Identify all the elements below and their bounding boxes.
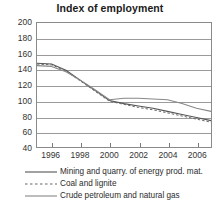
legend-label: Crude petroleum and natural gas <box>58 192 180 200</box>
legend-item: Coal and lignite <box>24 178 220 190</box>
y-axis-tick-label: 120 <box>2 81 32 90</box>
y-axis-tick-label: 40 <box>2 144 32 153</box>
y-axis-tick-label: 180 <box>2 34 32 43</box>
legend-label: Mining and quarry. of energy prod. mat. <box>58 168 203 176</box>
legend-line-swatch <box>24 192 58 200</box>
y-axis-tick-label: 200 <box>2 18 32 27</box>
y-axis-tick-label: 160 <box>2 50 32 59</box>
chart-title: Index of employment <box>0 2 220 14</box>
legend-item: Crude petroleum and natural gas <box>24 190 220 202</box>
series-line-0 <box>37 63 211 120</box>
chart-legend: Mining and quarry. of energy prod. mat.C… <box>24 166 220 202</box>
y-axis-tick-label: 100 <box>2 97 32 106</box>
legend-line-swatch <box>24 168 58 176</box>
legend-item: Mining and quarry. of energy prod. mat. <box>24 166 220 178</box>
legend-label: Coal and lignite <box>58 180 116 188</box>
y-axis-tick-label: 140 <box>2 65 32 74</box>
y-axis-tick-label: 60 <box>2 128 32 137</box>
legend-line-swatch <box>24 180 58 188</box>
y-axis-tick-label: 80 <box>2 113 32 122</box>
chart-container: Index of employment 20018016014012010080… <box>0 0 220 211</box>
series-lines <box>37 23 211 147</box>
series-line-1 <box>37 64 211 122</box>
plot-area <box>36 22 212 148</box>
x-axis-tick-label: 2006 <box>180 151 214 160</box>
